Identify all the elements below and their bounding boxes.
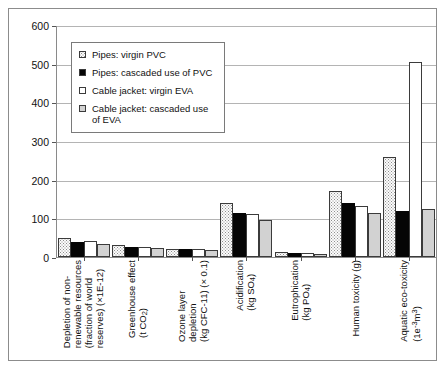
y-axis-tick-label: 100 xyxy=(9,214,49,224)
legend-item: Pipes: virgin PVC xyxy=(79,49,217,60)
bar xyxy=(58,238,71,257)
chart-legend: Pipes: virgin PVCPipes: cascaded use of … xyxy=(71,42,225,133)
legend-item: Cable jacket: virgin EVA xyxy=(79,85,217,96)
bar xyxy=(368,213,381,257)
bar xyxy=(151,248,164,257)
legend-swatch-icon xyxy=(79,69,86,76)
y-axis-tick-label: 200 xyxy=(9,176,49,186)
y-axis-tick-label: 0 xyxy=(9,253,49,263)
y-axis-tick-mark xyxy=(52,258,56,259)
bar xyxy=(314,254,327,257)
x-axis-label-cell: Aquatic eco-toxicity(1e-3m3) xyxy=(383,260,437,362)
x-axis-label: Ozone layerdepletion(kg CFC-11) (× 0.1) xyxy=(176,260,209,342)
bar xyxy=(233,213,246,257)
chart-frame: 0100200300400500600 Pipes: virgin PVCPip… xyxy=(8,8,437,361)
x-axis-label-cell: Greenhouse effect(t CO2) xyxy=(110,260,164,362)
bar xyxy=(301,253,314,257)
bar xyxy=(355,206,368,257)
bar xyxy=(112,245,125,257)
bar xyxy=(288,253,301,257)
x-axis-label-cell: Acidification(kg SO4) xyxy=(219,260,273,362)
bar xyxy=(179,249,192,257)
legend-item-label: Cable jacket: virgin EVA xyxy=(92,85,193,96)
legend-swatch-icon xyxy=(79,87,86,94)
bar xyxy=(97,244,110,257)
bar-group xyxy=(382,26,436,257)
legend-item-label: Pipes: cascaded use of PVC xyxy=(92,67,212,78)
bar xyxy=(220,203,233,257)
x-axis-label: Eutrophication(kg PO4) xyxy=(289,260,313,321)
x-axis-label-cell: Ozone layerdepletion(kg CFC-11) (× 0.1) xyxy=(165,260,219,362)
bar-group xyxy=(219,26,273,257)
legend-item: Cable jacket: cascaded use of EVA xyxy=(79,103,217,125)
x-axis-label-cell: Human toxicity (g) xyxy=(328,260,382,362)
bar xyxy=(166,249,179,258)
legend-item-label: Pipes: virgin PVC xyxy=(92,49,166,60)
bar xyxy=(138,247,151,257)
bar xyxy=(383,157,396,257)
x-axis-label: Human toxicity (g) xyxy=(350,260,361,337)
bar xyxy=(246,214,259,257)
bar xyxy=(329,191,342,257)
bar xyxy=(84,241,97,257)
x-axis-labels: Depletion of non-renewable resources(fra… xyxy=(56,260,437,362)
bar xyxy=(422,209,435,257)
legend-item: Pipes: cascaded use of PVC xyxy=(79,67,217,78)
y-axis-tick-label: 400 xyxy=(9,98,49,108)
bar xyxy=(342,203,355,257)
legend-item-label: Cable jacket: cascaded use of EVA xyxy=(92,103,217,125)
bar xyxy=(205,250,218,257)
y-axis-tick-label: 600 xyxy=(9,21,49,31)
x-axis-label-cell: Depletion of non-renewable resources(fra… xyxy=(56,260,110,362)
x-axis-label: Greenhouse effect(t CO2) xyxy=(126,260,150,338)
x-axis-label: Aquatic eco-toxicity(1e-3m3) xyxy=(398,260,422,342)
legend-swatch-icon xyxy=(79,51,86,58)
y-axis-tick-label: 300 xyxy=(9,137,49,147)
x-axis-label: Acidification(kg SO4) xyxy=(234,260,258,311)
bar xyxy=(192,249,205,257)
bar-group xyxy=(274,26,328,257)
x-axis-label-cell: Eutrophication(kg PO4) xyxy=(274,260,328,362)
bar xyxy=(259,220,272,257)
bar xyxy=(71,242,84,257)
legend-swatch-icon xyxy=(79,105,86,112)
bar xyxy=(275,252,288,257)
bar-group xyxy=(328,26,382,257)
y-axis-tick-label: 500 xyxy=(9,60,49,70)
x-axis-label: Depletion of non-renewable resources(fra… xyxy=(61,260,105,348)
bar xyxy=(125,247,138,257)
bar xyxy=(396,211,409,257)
bar xyxy=(409,62,422,257)
